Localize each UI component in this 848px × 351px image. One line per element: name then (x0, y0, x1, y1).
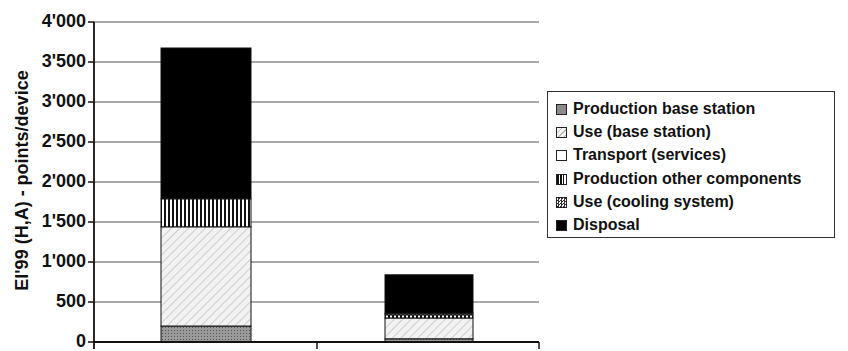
legend: Production base station Use (base statio… (547, 91, 835, 238)
bar-segment (161, 199, 251, 227)
y-tick-label: 3'500 (26, 51, 86, 72)
legend-item-disposal: Disposal (556, 216, 640, 234)
legend-item-use-base-station: Use (base station) (556, 123, 711, 141)
bar-segment (385, 275, 473, 313)
dotted-swatch-icon (556, 104, 567, 115)
hatch-swatch-icon (556, 127, 567, 138)
y-tick-label: 3'000 (26, 91, 86, 112)
black-swatch-icon (556, 220, 567, 231)
y-tick-label: 1'000 (26, 251, 86, 272)
bar-segment (385, 318, 473, 339)
y-tick-label: 2'500 (26, 131, 86, 152)
y-tick-label: 4'000 (26, 11, 86, 32)
bar-segment (161, 326, 251, 342)
chart-root: EI'99 (H,A) - points/device 05001'0001'5… (0, 0, 848, 351)
checker-swatch-icon (556, 197, 567, 208)
legend-item-transport: Transport (services) (556, 146, 726, 164)
bar-segment (161, 48, 251, 199)
vertical-lines-swatch-icon (556, 174, 567, 185)
y-tick-label: 2'000 (26, 171, 86, 192)
legend-item-use-cooling: Use (cooling system) (556, 193, 734, 211)
y-tick-label: 500 (26, 291, 86, 312)
legend-item-production-base-station: Production base station (556, 100, 755, 118)
legend-item-production-other: Production other components (556, 170, 801, 188)
y-tick-label: 1'500 (26, 211, 86, 232)
bar-segment (161, 227, 251, 326)
y-tick-label: 0 (26, 331, 86, 351)
white-swatch-icon (556, 150, 567, 161)
